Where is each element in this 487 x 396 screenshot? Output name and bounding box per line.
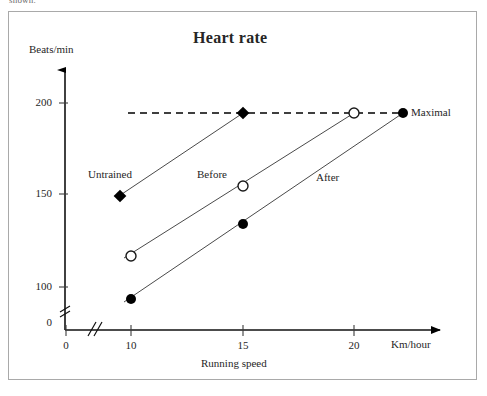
y-tick-label-150: 150 [18,187,52,199]
series-label-before: Before [197,168,227,180]
clipped-header-text: shown. [9,0,36,5]
y-tick-label-100: 100 [18,280,52,292]
series-label-maximal: Maximal [411,106,451,118]
figure-border-box [8,11,477,380]
series-label-after: After [316,171,339,183]
x-tick-label-20: 20 [339,339,369,351]
series-label-untrained: Untrained [88,168,132,180]
chart-title: Heart rate [193,29,268,47]
y-tick-label-0: 0 [18,316,52,328]
x-tick-label-10: 10 [116,339,146,351]
x-axis-title: Running speed [201,357,267,369]
x-axis-unit-label: Km/hour [391,338,431,350]
y-tick-label-200: 200 [18,96,52,108]
x-tick-label-0: 0 [51,339,81,351]
x-tick-label-15: 15 [228,339,258,351]
y-axis-title: Beats/min [29,43,74,55]
